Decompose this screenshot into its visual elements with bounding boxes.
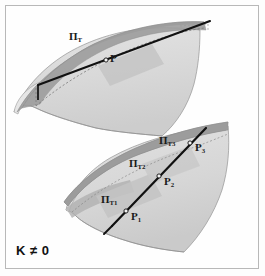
curvature-caption: K ≠ 0 [16,243,49,258]
geometry-illustration [0,0,265,276]
label-plane-pi-T2: ΠT2 [129,158,146,169]
label-point-P2: P2 [164,176,174,187]
point-marker-P [104,58,108,62]
point-marker-P3 [188,141,192,145]
label-plane-pi-T: ΠT [69,31,82,42]
point-marker-P1 [124,209,128,213]
label-plane-pi-T3: ΠT3 [159,135,176,146]
label-point-P: P [110,53,117,64]
surface-upper-group [14,21,210,136]
label-point-P1: P1 [131,211,141,222]
label-point-P3: P3 [195,142,205,153]
point-marker-P2 [157,174,161,178]
label-plane-pi-T1: ΠT1 [101,194,118,205]
figure-container: ΠT P ΠT1 ΠT2 ΠT3 P1 P2 P3 K ≠ 0 [0,0,265,276]
